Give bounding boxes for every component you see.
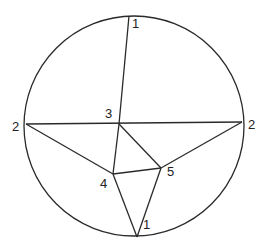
graph-diagram: 1223451 — [0, 0, 266, 247]
outer-circle — [24, 16, 244, 236]
node-label-bottom: 1 — [143, 217, 150, 232]
edge-center-n5 — [119, 124, 161, 168]
edge-right-n5 — [161, 122, 242, 168]
edge-left-n4 — [26, 124, 113, 174]
edge-n4-n5 — [113, 168, 161, 174]
node-label-left: 2 — [12, 119, 19, 134]
node-label-top: 1 — [132, 16, 139, 31]
edge-center-n4 — [113, 124, 119, 174]
edge-top-center — [119, 16, 129, 124]
edges — [26, 16, 242, 237]
node-label-n4: 4 — [100, 176, 107, 191]
node-label-right: 2 — [248, 117, 255, 132]
edge-n4-bottom — [113, 174, 137, 237]
node-label-n5: 5 — [167, 164, 174, 179]
node-label-center: 3 — [105, 106, 112, 121]
edge-left-right — [26, 122, 242, 124]
